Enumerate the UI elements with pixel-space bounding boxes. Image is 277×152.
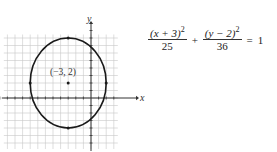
plus-sign: + [192, 34, 198, 46]
center-point [67, 82, 70, 85]
vertex-point [67, 37, 70, 40]
axes [0, 21, 139, 151]
y-term-numerator: (y − 2)2 [203, 27, 242, 40]
ellipse-graph: x y (−3, 2) [0, 0, 150, 152]
x-axis-arrow [136, 96, 139, 100]
x-term-numerator: (x + 3)2 [148, 27, 187, 40]
vertex-point [105, 82, 108, 85]
x-term-denominator: 25 [162, 40, 173, 53]
grid [4, 35, 118, 150]
y-term-denominator: 36 [217, 40, 228, 53]
vertex-point [67, 127, 70, 130]
center-point-label: (−3, 2) [50, 67, 76, 78]
y-term-fraction: (y − 2)2 36 [203, 27, 242, 53]
ellipse-equation: (x + 3)2 25 + (y − 2)2 36 = 1 [148, 27, 263, 53]
x-term-fraction: (x + 3)2 25 [148, 27, 187, 53]
x-axis-label: x [139, 92, 145, 103]
y-axis-label: y [86, 13, 92, 24]
equation-rhs: 1 [258, 34, 264, 46]
vertex-point [29, 82, 32, 85]
equals-sign: = [247, 34, 253, 46]
